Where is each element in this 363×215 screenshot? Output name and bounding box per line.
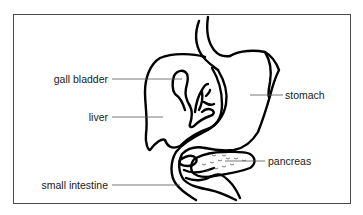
label-pancreas: pancreas bbox=[268, 155, 311, 167]
label-stomach: stomach bbox=[285, 89, 325, 101]
label-small-intestine: small intestine bbox=[20, 179, 108, 191]
esophagus-drawing bbox=[196, 17, 230, 70]
liver-drawing bbox=[145, 54, 222, 150]
pancreas-texture bbox=[202, 155, 246, 171]
label-gall-bladder: gall bladder bbox=[30, 73, 108, 85]
label-liver: liver bbox=[30, 111, 108, 123]
